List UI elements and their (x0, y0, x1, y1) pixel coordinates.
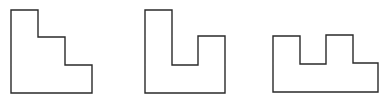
staircase-shape (11, 10, 92, 93)
u-notch-shape (145, 10, 225, 93)
figure-canvas (0, 0, 388, 103)
shapes-diagram (0, 0, 388, 103)
double-tab-shape (273, 35, 378, 92)
